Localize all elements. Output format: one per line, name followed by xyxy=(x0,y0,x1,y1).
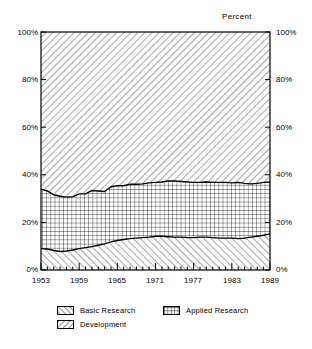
legend-item-basic-research: Basic Research xyxy=(57,304,135,316)
legend-item-development: Development xyxy=(57,318,126,330)
stacked-area-plot xyxy=(0,0,312,349)
chart-legend: Basic Research Development Applied Resea… xyxy=(0,300,312,342)
area-band-development xyxy=(41,32,270,197)
chart-figure: Percent 100% 80% 60% 40% 20% 0% 100% 80%… xyxy=(0,0,312,349)
legend-label-applied-research: Applied Research xyxy=(186,306,248,315)
legend-swatch-applied-research-icon xyxy=(163,306,180,315)
legend-swatch-basic-research-icon xyxy=(57,306,74,315)
legend-label-basic-research: Basic Research xyxy=(80,306,135,315)
legend-swatch-development-icon xyxy=(57,320,74,329)
legend-label-development: Development xyxy=(80,320,126,329)
legend-item-applied-research: Applied Research xyxy=(163,304,248,316)
